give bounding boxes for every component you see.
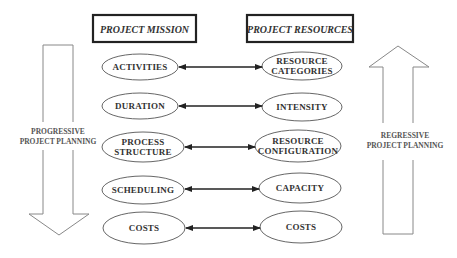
- node-label: PROCESS: [122, 137, 165, 147]
- header-label: PROJECT RESOURCES: [247, 24, 353, 35]
- header-project-resources: PROJECT RESOURCES: [247, 15, 353, 42]
- resource-node: INTENSITY: [262, 93, 342, 121]
- regressive-label-line-2: PROJECT PLANNING: [367, 141, 444, 150]
- mission-node: COSTS: [103, 212, 185, 244]
- node-label: COSTS: [129, 223, 160, 233]
- progressive-label-line-1: PROGRESSIVE: [31, 127, 85, 136]
- mission-node: DURATION: [102, 93, 178, 119]
- arrow-down-head-icon: [29, 150, 89, 235]
- header-label: PROJECT MISSION: [100, 24, 190, 35]
- row-3: PROCESSSTRUCTURERESOURCECONFIGURATION: [102, 130, 341, 162]
- regressive-label-line-1: REGRESSIVE: [381, 131, 429, 140]
- row-1: ACTIVITIESRESOURCECATEGORIES: [102, 52, 342, 80]
- arrow-up-icon: [383, 160, 413, 234]
- node-label: CATEGORIES: [271, 66, 332, 76]
- node-label: STRUCTURE: [114, 147, 171, 157]
- node-label: SCHEDULING: [112, 185, 175, 195]
- mission-resource-pairs: ACTIVITIESRESOURCECATEGORIESDURATIONINTE…: [102, 52, 342, 244]
- node-label: COSTS: [286, 222, 317, 232]
- node-label: DURATION: [115, 101, 165, 111]
- node-label: RESOURCE: [276, 56, 328, 66]
- resource-node: CAPACITY: [259, 173, 341, 203]
- mission-node: ACTIVITIES: [102, 54, 178, 80]
- node-label: INTENSITY: [276, 102, 328, 112]
- mission-node: PROCESSSTRUCTURE: [102, 132, 184, 162]
- row-5: COSTSCOSTS: [103, 211, 342, 244]
- project-planning-diagram: PROJECT MISSION PROJECT RESOURCES ACTIVI…: [0, 0, 457, 258]
- node-label: CONFIGURATION: [258, 146, 339, 156]
- regressive-planning-arrow: REGRESSIVE PROJECT PLANNING: [367, 46, 444, 234]
- progressive-label-line-2: PROJECT PLANNING: [20, 137, 97, 146]
- node-label: RESOURCE: [272, 136, 324, 146]
- mission-node: SCHEDULING: [102, 176, 184, 204]
- header-project-mission: PROJECT MISSION: [93, 15, 196, 42]
- resource-node: RESOURCECATEGORIES: [262, 52, 342, 80]
- resource-node: RESOURCECONFIGURATION: [255, 130, 341, 162]
- progressive-planning-arrow: PROGRESSIVE PROJECT PLANNING: [20, 45, 97, 235]
- row-2: DURATIONINTENSITY: [102, 93, 342, 121]
- node-label: ACTIVITIES: [112, 62, 167, 72]
- arrow-down-icon: [43, 45, 73, 122]
- arrow-up-head-icon: [369, 46, 429, 123]
- row-4: SCHEDULINGCAPACITY: [102, 173, 341, 204]
- resource-node: COSTS: [260, 211, 342, 243]
- node-label: CAPACITY: [276, 183, 325, 193]
